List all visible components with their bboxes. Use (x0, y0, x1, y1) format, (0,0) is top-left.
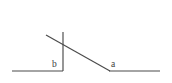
angle-label-a: a (111, 59, 116, 69)
geometry-diagram: b a (0, 0, 172, 83)
diagram-canvas: b a (0, 0, 172, 83)
angle-label-b: b (52, 59, 57, 69)
